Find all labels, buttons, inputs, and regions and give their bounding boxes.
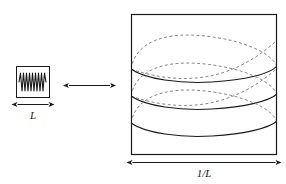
solid-front-arc-3 <box>131 121 277 136</box>
figure-container: L <box>0 0 286 184</box>
small-box-group: L <box>17 67 50 122</box>
large-box-group: 1/L <box>131 15 277 180</box>
long-wavelength-helical-modes <box>131 35 277 136</box>
dashed-back-arc-1b <box>131 40 277 78</box>
small-box-label: L <box>29 109 36 121</box>
duality-diagram-svg: L <box>0 0 286 184</box>
dashed-back-arc-3 <box>131 90 277 123</box>
large-box-label: 1/L <box>197 167 212 179</box>
dashed-back-arc-2b <box>131 68 277 105</box>
solid-front-arc-1 <box>131 66 277 82</box>
